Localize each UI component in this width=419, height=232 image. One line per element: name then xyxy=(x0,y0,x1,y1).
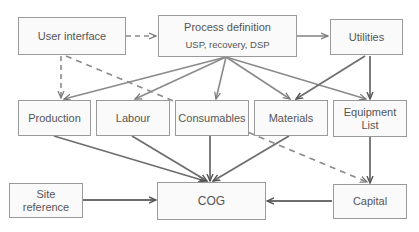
node-sublabel: USP, recovery, DSP xyxy=(185,38,269,51)
node-process-definition: Process definition USP, recovery, DSP xyxy=(158,15,297,57)
node-label: Utilities xyxy=(349,31,384,44)
edge-labour-cog xyxy=(132,136,207,181)
edge-process-consumables xyxy=(216,57,226,99)
node-capital: Capital xyxy=(333,184,407,219)
node-site-reference: Site reference xyxy=(9,183,83,218)
edge-production-cog xyxy=(54,136,205,181)
node-consumables: Consumables xyxy=(175,100,249,136)
node-utilities: Utilities xyxy=(330,19,403,55)
node-label: Capital xyxy=(353,195,387,208)
node-label: Materials xyxy=(269,112,314,125)
node-label: Site reference xyxy=(23,188,69,214)
node-user-interface: User interface xyxy=(18,17,126,55)
node-label: User interface xyxy=(38,30,106,43)
node-label: Equipment List xyxy=(344,106,397,132)
node-label: COG xyxy=(198,195,225,208)
node-label: Consumables xyxy=(178,112,245,125)
node-equipment-list: Equipment List xyxy=(333,100,407,137)
edge-materials-cog xyxy=(213,136,289,181)
node-label: Process definition xyxy=(184,21,271,34)
node-materials: Materials xyxy=(254,100,328,136)
node-labour: Labour xyxy=(96,100,170,136)
node-label: Labour xyxy=(116,112,150,125)
edge-process-labour xyxy=(135,57,226,99)
node-label: Production xyxy=(28,112,81,125)
node-production: Production xyxy=(18,100,91,136)
edge-process-equipment xyxy=(226,57,366,99)
node-cog: COG xyxy=(157,182,266,220)
edge-utilities-materials xyxy=(296,56,365,99)
edge-process-production xyxy=(64,57,226,99)
edge-process-materials xyxy=(226,57,290,99)
